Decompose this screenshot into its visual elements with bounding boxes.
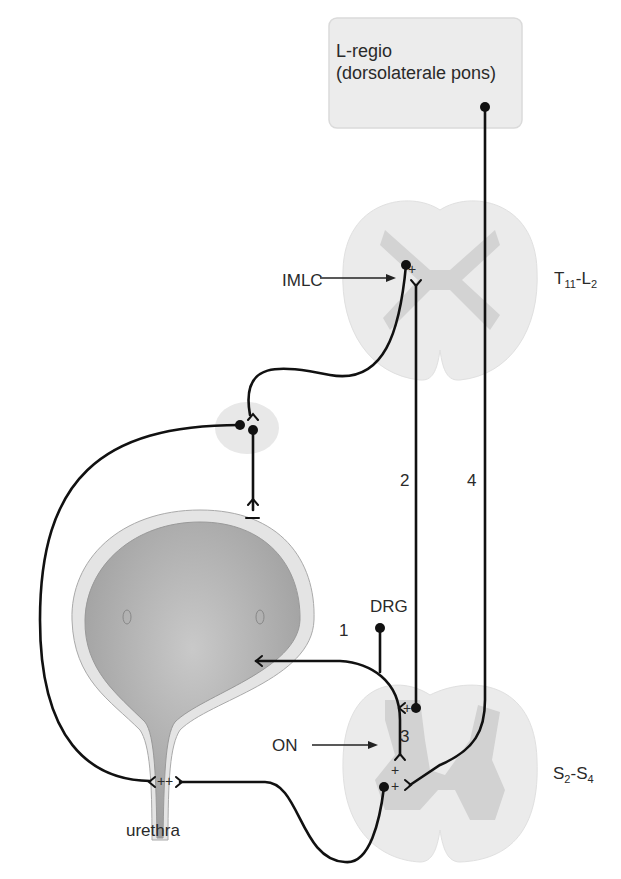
imlc-plus-sign: + (408, 262, 416, 276)
level-upper-main: T (554, 269, 564, 288)
on-neuron (379, 782, 389, 792)
lower-cord-neuron (411, 703, 421, 713)
imlc-label: IMLC (282, 272, 323, 289)
ganglion-neuron-a (235, 420, 245, 430)
bladder (72, 510, 314, 840)
pathway-2-label: 2 (400, 472, 409, 489)
diagram-canvas (0, 0, 621, 879)
pathway-3-label: 3 (400, 728, 409, 745)
spinal-cord-upper (343, 201, 537, 380)
drg-label: DRG (370, 598, 408, 615)
level-lower-sub2: 4 (587, 773, 593, 785)
urethra-label: urethra (126, 822, 180, 839)
pathway-1-label: 1 (339, 622, 348, 639)
pons-label-line2: (dorsolaterale pons) (336, 62, 496, 84)
on-plus-sign-lower: + (391, 779, 399, 793)
on-plus-sign-upper: + (391, 763, 399, 777)
ganglion (215, 402, 279, 454)
pons-label-line1: L-regio (336, 40, 496, 62)
level-lower-main: S (553, 764, 564, 783)
pons-label: L-regio (dorsolaterale pons) (336, 40, 496, 84)
pathway-4-label: 4 (467, 472, 476, 489)
drg-neuron (375, 623, 385, 633)
level-upper: T11-L2 (554, 270, 597, 290)
level-upper-sub2: 2 (591, 278, 597, 290)
level-lower-sep: -S (570, 764, 587, 783)
pons-neuron (480, 102, 490, 112)
level-upper-sub1: 11 (564, 278, 575, 290)
lower-cord-plus-sign: + (403, 701, 411, 715)
urethra-plus-right: + (165, 774, 173, 788)
ganglion-neuron-b (248, 425, 258, 435)
on-label: ON (272, 737, 298, 754)
level-lower: S2-S4 (553, 765, 594, 785)
urethra-plus-left: + (157, 774, 165, 788)
level-upper-sep: -L (576, 269, 591, 288)
